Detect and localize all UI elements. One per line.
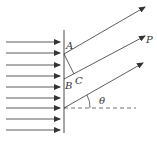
incident-rays: [6, 42, 60, 130]
path-difference-line-AC: [64, 54, 74, 74]
label-B: B: [64, 80, 72, 91]
diffraction-diagram: A B C P θ: [0, 0, 157, 143]
label-P: P: [145, 34, 153, 45]
label-C: C: [75, 75, 83, 86]
label-A: A: [65, 40, 73, 51]
diffracted-rays: [64, 7, 145, 108]
label-theta: θ: [99, 95, 105, 106]
angle-arc: [87, 95, 90, 108]
